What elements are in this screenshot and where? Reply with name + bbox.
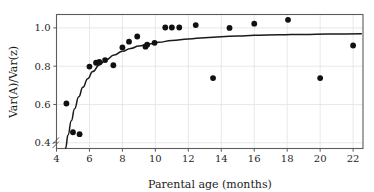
x-tick-label: 20 xyxy=(314,153,327,164)
y-tick-label: 1.0 xyxy=(35,22,51,33)
data-point xyxy=(317,75,323,81)
x-tick-label: 6 xyxy=(86,153,92,164)
data-point xyxy=(210,75,216,81)
x-tick-label: 16 xyxy=(248,153,261,164)
y-tick-label: 0.4 xyxy=(35,137,51,148)
data-point xyxy=(110,62,116,68)
y-axis-label: Var(A)/Var(z) xyxy=(7,46,20,119)
data-point xyxy=(87,64,93,70)
y-tick-label: 0.6 xyxy=(35,99,51,110)
data-point xyxy=(285,17,291,23)
data-point xyxy=(169,25,175,31)
data-point xyxy=(126,39,132,45)
data-point xyxy=(70,129,76,135)
data-point xyxy=(134,34,140,40)
data-point xyxy=(152,40,158,46)
data-point xyxy=(144,42,150,48)
x-axis-label: Parental age (months) xyxy=(148,178,272,191)
scatter-plot: 46810121416182022 0.40.60.81.0 Parental … xyxy=(0,0,374,192)
data-point xyxy=(193,22,199,28)
y-tick-labels: 0.40.60.81.0 xyxy=(35,22,51,148)
x-tick-label: 12 xyxy=(182,153,195,164)
data-point xyxy=(120,45,126,51)
data-point xyxy=(63,101,69,107)
x-tick-labels: 46810121416182022 xyxy=(53,153,359,164)
data-point xyxy=(227,25,233,31)
x-tick-label: 14 xyxy=(215,153,228,164)
tick-marks xyxy=(53,28,353,152)
data-point xyxy=(102,57,108,63)
fit-curve xyxy=(66,34,362,148)
data-point xyxy=(350,43,356,49)
x-tick-label: 22 xyxy=(347,153,360,164)
data-point xyxy=(96,59,102,65)
x-tick-label: 18 xyxy=(281,153,294,164)
x-tick-label: 10 xyxy=(149,153,162,164)
data-point xyxy=(162,25,168,31)
x-tick-label: 8 xyxy=(119,153,125,164)
fit-curve-path xyxy=(66,34,362,148)
x-tick-label: 4 xyxy=(53,153,59,164)
data-point xyxy=(176,25,182,31)
y-tick-label: 0.8 xyxy=(35,61,51,72)
data-point xyxy=(77,131,83,137)
figure-container: 46810121416182022 0.40.60.81.0 Parental … xyxy=(0,0,374,192)
data-point xyxy=(251,21,257,27)
